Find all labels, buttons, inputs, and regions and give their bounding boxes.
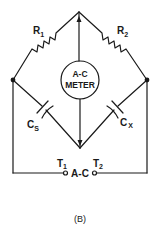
meter-label-line2: METER xyxy=(65,80,95,90)
terminal-t2 xyxy=(93,171,97,175)
r2-label: R2 xyxy=(117,25,128,38)
ac-source-label: A-C xyxy=(71,168,89,179)
resistor-r2 xyxy=(79,12,147,80)
resistor-r1 xyxy=(13,12,79,80)
ac-meter: A-C METER xyxy=(61,61,99,99)
meter-label-line1: A-C xyxy=(72,69,87,79)
meter-upper-wire xyxy=(77,12,82,61)
terminal-t1 xyxy=(64,171,68,175)
t2-label: T2 xyxy=(93,158,103,170)
capacitor-cs xyxy=(13,80,80,148)
r1-label: R1 xyxy=(33,25,44,38)
figure-caption: (B) xyxy=(74,214,86,224)
t1-label: T1 xyxy=(57,158,67,170)
capacitor-cx xyxy=(80,80,147,148)
bridge-circuit-diagram: A-C METER R1 R2 CS CX T1 T2 A-C (B xyxy=(0,0,157,233)
meter-lower-wire xyxy=(78,99,83,148)
cs-label: CS xyxy=(27,119,39,132)
cx-label: CX xyxy=(120,117,133,129)
